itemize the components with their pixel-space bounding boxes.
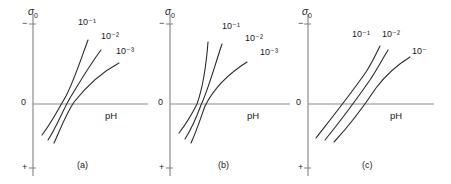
curve-10e-2 [185, 44, 222, 139]
curve-10e-3 [191, 62, 247, 143]
series-label-b-10e-3: 10⁻³ [260, 48, 278, 57]
panel-b: σ0 − 0 + pH 10⁻¹ 10⁻² 10⁻³ (b) [150, 0, 300, 184]
curve-10e-2 [48, 50, 101, 140]
y-tick-label-negative-a: − [22, 18, 27, 28]
series-label-c-10e-1: 10⁻¹ [352, 30, 370, 39]
panel-caption-c: (c) [362, 160, 373, 170]
panel-a: σ0 − 0 + pH 10⁻¹ 10⁻² 10⁻³ (a) [0, 0, 150, 184]
y-tick-label-negative-c: − [298, 18, 303, 28]
series-label-b-10e-1: 10⁻¹ [222, 22, 240, 31]
panel-c-plot [300, 0, 450, 184]
y-axis-title-a: σ0 [28, 6, 38, 17]
curve-10e-1 [316, 46, 380, 138]
panel-caption-a: (a) [77, 160, 88, 170]
series-label-b-10e-2: 10⁻² [245, 34, 263, 43]
series-label-c-10e-3: 10⁻ [412, 47, 427, 56]
y-tick-label-zero-c: 0 [296, 97, 301, 107]
series-label-c-10e-2: 10⁻² [382, 30, 400, 39]
x-axis-title-c: pH [390, 110, 402, 121]
panel-caption-b: (b) [218, 160, 229, 170]
panel-c: σ0 − 0 + pH 10⁻¹ 10⁻² 10⁻ (c) [300, 0, 450, 184]
curve-10e-3 [54, 63, 119, 143]
series-label-a-10e-3: 10⁻³ [116, 47, 134, 56]
y-tick-label-negative-b: − [159, 18, 164, 28]
y-axis-title-b: σ0 [165, 6, 175, 17]
y-tick-label-zero-a: 0 [21, 97, 26, 107]
y-axis-title-c: σ0 [302, 6, 312, 17]
y-tick-label-positive-b: + [159, 162, 164, 172]
y-tick-label-positive-c: + [298, 162, 303, 172]
curve-10e-1 [179, 42, 208, 133]
x-axis-title-b: pH [247, 110, 259, 121]
series-label-a-10e-2: 10⁻² [101, 32, 119, 41]
y-tick-label-positive-a: + [22, 162, 27, 172]
curve-10e-2 [325, 50, 388, 140]
x-axis-title-a: pH [105, 110, 117, 121]
series-label-a-10e-1: 10⁻¹ [78, 18, 96, 27]
y-tick-label-zero-b: 0 [158, 97, 163, 107]
curve-10e-1 [42, 40, 88, 135]
figure-container: σ0 − 0 + pH 10⁻¹ 10⁻² 10⁻³ (a) σ0 − 0 + … [0, 0, 451, 184]
